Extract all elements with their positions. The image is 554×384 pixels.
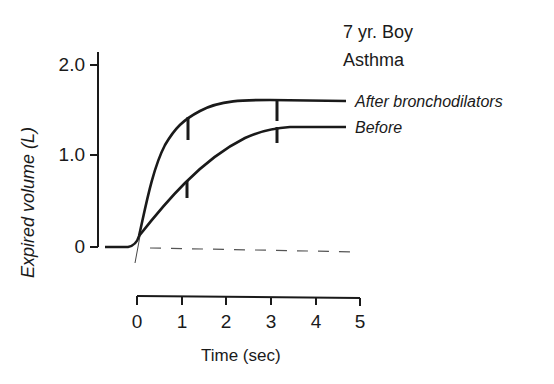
legend-before: Before xyxy=(355,119,402,137)
fev-markers xyxy=(187,100,277,198)
series-after-bronchodilators xyxy=(105,100,346,247)
annotation-age: 7 yr. Boy xyxy=(343,22,413,43)
y-tick-0: 0 xyxy=(45,236,85,258)
y-axis-label: Expired volume (L) xyxy=(18,127,39,278)
series-before xyxy=(139,127,346,236)
y-tick-2: 2.0 xyxy=(45,54,85,76)
x-axis-label: Time (sec) xyxy=(201,346,281,366)
zero-reference-line xyxy=(150,248,360,252)
x-tick-5: 5 xyxy=(350,311,370,333)
legend-after-bronchodilators: After bronchodilators xyxy=(355,93,503,111)
y-tick-1: 1.0 xyxy=(45,144,85,166)
x-tick-1: 1 xyxy=(172,311,192,333)
x-tick-4: 4 xyxy=(306,311,326,333)
x-tick-3: 3 xyxy=(261,311,281,333)
x-tick-0: 0 xyxy=(127,311,147,333)
x-tick-2: 2 xyxy=(216,311,236,333)
y-axis xyxy=(90,52,98,247)
annotation-diagnosis: Asthma xyxy=(343,50,404,71)
x-axis xyxy=(137,296,360,306)
